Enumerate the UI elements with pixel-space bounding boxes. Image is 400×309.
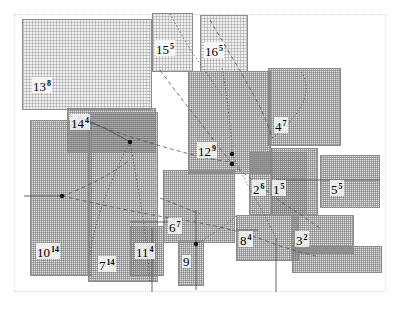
rectangle-label-5: 55	[330, 180, 344, 196]
label-weight: 5	[219, 44, 223, 53]
connection-edge	[90, 142, 130, 256]
label-id: 13	[33, 79, 46, 94]
label-weight: 4	[85, 116, 89, 125]
label-id: 5	[331, 182, 338, 197]
connection-node	[60, 194, 64, 198]
label-weight: 6	[261, 182, 265, 191]
rectangle-label-3: 32	[295, 231, 309, 247]
label-weight: 5	[339, 182, 343, 191]
rectangle-label-7: 714	[98, 256, 116, 272]
label-id: 15	[156, 42, 169, 57]
label-id: 3	[296, 233, 303, 248]
label-weight: 9	[212, 144, 216, 153]
label-weight: 2	[304, 233, 308, 242]
rectangle-label-16: 165	[204, 42, 224, 58]
label-id: 8	[240, 233, 247, 248]
label-id: 11	[136, 245, 149, 260]
label-id: 16	[205, 44, 218, 59]
rectangle-label-2: 26	[252, 180, 266, 196]
label-weight: 7	[177, 220, 181, 229]
label-weight: 4	[150, 245, 154, 254]
connection-edge	[210, 20, 272, 138]
label-id: 14	[71, 116, 84, 131]
diagram-canvas: 1381551651441294726155510147141146798432	[0, 0, 400, 309]
label-id: 9	[183, 254, 190, 269]
label-id: 7	[99, 258, 106, 273]
label-id: 6	[169, 220, 176, 235]
rectangle-label-10: 1014	[36, 243, 60, 259]
label-weight: 14	[51, 245, 59, 254]
connection-edge	[130, 142, 150, 282]
connection-node	[128, 140, 132, 144]
connection-edge	[62, 196, 232, 230]
label-id: 10	[37, 245, 50, 260]
rectangle-label-4: 47	[274, 117, 288, 133]
connection-edge	[222, 68, 232, 154]
label-weight: 5	[170, 42, 174, 51]
connection-node	[230, 162, 234, 166]
connection-node	[230, 152, 234, 156]
connection-edge	[196, 216, 236, 244]
rectangle-label-14: 144	[70, 114, 90, 130]
label-id: 1	[273, 182, 280, 197]
label-weight: 14	[107, 258, 115, 267]
label-weight: 7	[283, 119, 287, 128]
label-id: 4	[275, 119, 282, 134]
connection-edge	[160, 70, 232, 164]
label-weight: 5	[281, 182, 285, 191]
rectangle-label-8: 84	[239, 231, 253, 247]
rectangle-label-12: 129	[197, 142, 217, 158]
label-weight: 4	[248, 233, 252, 242]
rectangle-label-1: 15	[272, 180, 286, 196]
connection-edge	[160, 198, 200, 214]
rectangle-label-15: 155	[155, 40, 175, 56]
rectangle-label-6: 67	[168, 218, 182, 234]
rectangle-label-11: 114	[135, 243, 155, 259]
label-id: 12	[198, 144, 211, 159]
rectangle-label-9: 9	[182, 255, 191, 268]
connection-edge	[62, 160, 130, 196]
label-id: 2	[253, 182, 260, 197]
label-weight: 8	[47, 79, 51, 88]
rectangle-label-13: 138	[32, 77, 52, 93]
connection-node	[194, 242, 198, 246]
